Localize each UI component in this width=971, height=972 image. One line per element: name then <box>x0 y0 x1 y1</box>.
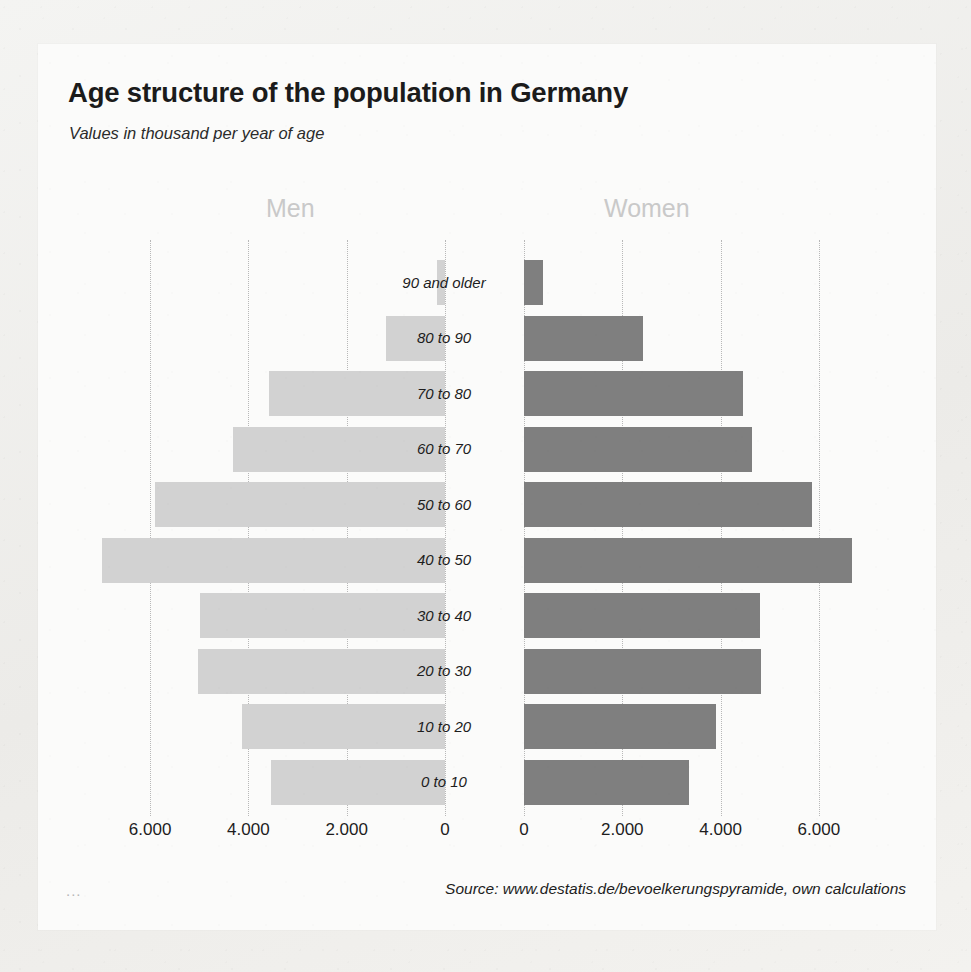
axis-tick-men-4000: 4.000 <box>227 820 270 840</box>
age-group-label: 80 to 90 <box>393 311 495 367</box>
pyramid-row: 10 to 20 <box>38 699 936 755</box>
population-pyramid-chart: Men Women 90 and older80 to 9070 to 8060… <box>38 44 936 930</box>
bar-women-80-to-90 <box>524 316 643 361</box>
axis-tick-women-4000: 4.000 <box>699 820 742 840</box>
axis-tick-men-0: 0 <box>440 820 449 840</box>
bar-women-30-to-40 <box>524 593 760 638</box>
pyramid-row: 0 to 10 <box>38 755 936 811</box>
age-group-label: 70 to 80 <box>393 366 495 422</box>
bar-women-60-to-70 <box>524 427 752 472</box>
age-group-label: 20 to 30 <box>393 644 495 700</box>
age-group-label: 40 to 50 <box>393 533 495 589</box>
age-group-label: 10 to 20 <box>393 699 495 755</box>
chart-card: Age structure of the population in Germa… <box>38 44 936 930</box>
axis-tick-women-6000: 6.000 <box>798 820 841 840</box>
pyramid-row: 20 to 30 <box>38 644 936 700</box>
source-note: Source: www.destatis.de/bevoelkerungspyr… <box>445 880 906 898</box>
axis-tick-women-2000: 2.000 <box>601 820 644 840</box>
bar-women-40-to-50 <box>524 538 852 583</box>
bar-women-0-to-10 <box>524 760 689 805</box>
pyramid-row: 40 to 50 <box>38 533 936 589</box>
age-group-label: 90 and older <box>393 255 495 311</box>
legend-men: Men <box>266 194 315 223</box>
pyramid-row: 80 to 90 <box>38 311 936 367</box>
age-group-label: 0 to 10 <box>393 755 495 811</box>
axis-tick-women-0: 0 <box>519 820 528 840</box>
pyramid-row: 30 to 40 <box>38 588 936 644</box>
corner-mark: ... <box>66 882 82 899</box>
bar-women-90-and-older <box>524 260 543 305</box>
pyramid-row: 60 to 70 <box>38 422 936 478</box>
axis-tick-men-2000: 2.000 <box>325 820 368 840</box>
bar-women-10-to-20 <box>524 704 716 749</box>
pyramid-row: 70 to 80 <box>38 366 936 422</box>
age-group-label: 60 to 70 <box>393 422 495 478</box>
bar-women-20-to-30 <box>524 649 761 694</box>
legend-women: Women <box>604 194 690 223</box>
pyramid-row: 50 to 60 <box>38 477 936 533</box>
age-group-label: 30 to 40 <box>393 588 495 644</box>
pyramid-row: 90 and older <box>38 255 936 311</box>
bar-women-50-to-60 <box>524 482 812 527</box>
bar-women-70-to-80 <box>524 371 743 416</box>
axis-tick-men-6000: 6.000 <box>129 820 172 840</box>
age-group-label: 50 to 60 <box>393 477 495 533</box>
